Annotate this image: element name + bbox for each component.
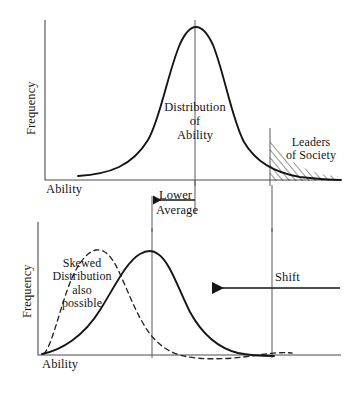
- figure-root: Frequency Ability Distribution of Abilit…: [0, 0, 348, 397]
- bottom-x-axis-label: Ability: [42, 357, 78, 371]
- leaders-label-line-1: Leaders: [276, 136, 346, 149]
- top-y-axis-label: Frequency: [24, 81, 38, 135]
- skewed-label-line-2: Distribution: [34, 270, 130, 283]
- shift-label: Shift: [275, 270, 300, 284]
- average-label: Average: [156, 203, 198, 217]
- distribution-label-line-3: Ability: [145, 128, 245, 142]
- distribution-of-ability-label: Distribution of Ability: [145, 100, 245, 142]
- skewed-label-line-3: also: [34, 284, 130, 297]
- leaders-label-line-2: of Society: [276, 149, 346, 162]
- distribution-label-line-2: of: [145, 114, 245, 128]
- skewed-label-line-4: possible: [34, 297, 130, 310]
- bottom-y-axis-label: Frequency: [20, 264, 34, 318]
- skewed-distribution-label: Skewed Distribution also possible: [34, 257, 130, 311]
- lower-label: Lower: [159, 188, 192, 202]
- top-x-axis-label: Ability: [46, 182, 82, 196]
- skewed-label-line-1: Skewed: [34, 257, 130, 270]
- distribution-label-line-1: Distribution: [145, 100, 245, 114]
- leaders-of-society-label: Leaders of Society: [276, 136, 346, 163]
